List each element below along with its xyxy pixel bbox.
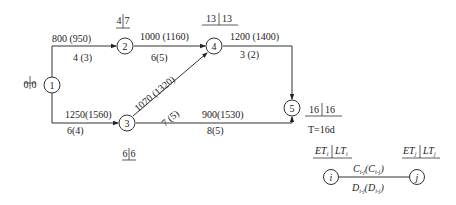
time-box-node-1: 0 0 (24, 76, 37, 90)
edge-1-3-cost: 1250(1560) (65, 109, 112, 121)
svg-text:i: i (330, 172, 333, 183)
svg-text:0: 0 (32, 79, 37, 90)
network-diagram: 1 2 3 4 5 0 0 4 7 13 13 16 16 (0, 0, 456, 205)
svg-text:1: 1 (50, 80, 55, 91)
svg-text:ETj: ETj (402, 145, 417, 157)
edge-4-5-cost: 1200 (1400) (230, 31, 279, 43)
svg-text:7: 7 (125, 15, 130, 26)
svg-text:5: 5 (290, 103, 295, 114)
svg-text:4: 4 (117, 15, 122, 26)
edge-2-4-cost: 1000 (1160) (140, 31, 189, 43)
svg-text:4: 4 (212, 41, 217, 52)
edge-4-5-duration: 3 (2) (240, 49, 259, 61)
svg-text:ETi: ETi (314, 145, 329, 157)
node-3: 3 (119, 115, 135, 131)
svg-text:13: 13 (222, 13, 232, 24)
legend-time-box-i: ETi LTi (313, 145, 352, 158)
diagram-svg: 1 2 3 4 5 0 0 4 7 13 13 16 16 (0, 0, 456, 205)
edge-1-2-duration: 4 (3) (73, 52, 92, 64)
svg-text:6: 6 (123, 148, 128, 159)
total-time-label: T=16d (308, 124, 335, 135)
svg-text:13: 13 (206, 13, 216, 24)
time-box-node-5: 16 16 (305, 103, 342, 116)
svg-text:3: 3 (125, 118, 130, 129)
node-2: 2 (117, 38, 133, 54)
legend-duration-label: Di-j(Di-j) (351, 182, 385, 194)
edge-3-5-cost: 900(1530) (202, 109, 244, 121)
time-box-node-3: 6 6 (122, 148, 136, 160)
svg-text:LTi: LTi (334, 145, 348, 157)
legend-node-i: i (324, 170, 339, 185)
node-1: 1 (44, 77, 60, 93)
legend-time-box-j: ETj LTj (402, 145, 440, 158)
svg-text:2: 2 (123, 41, 128, 52)
edge-1-2-cost: 800 (950) (52, 33, 91, 45)
svg-text:16: 16 (309, 104, 319, 115)
edge-3-4-cost: 1070 (1320) (132, 73, 177, 114)
svg-text:6: 6 (131, 148, 136, 159)
legend-cost-label: Ci-j(Ci-j) (353, 163, 384, 175)
edge-3-4-duration: 7 (5) (159, 108, 181, 130)
legend: ETi LTi ETj LTj i j Ci-j(Ci-j) Di-j(Di-j… (313, 145, 440, 194)
time-box-node-4: 13 13 (202, 13, 238, 25)
node-4: 4 (206, 38, 222, 54)
legend-node-j: j (410, 170, 425, 185)
edge-3-5-duration: 8(5) (207, 125, 224, 137)
svg-text:0: 0 (24, 79, 29, 90)
edge-1-3-duration: 6(4) (67, 125, 84, 137)
svg-text:LTj: LTj (422, 145, 436, 157)
edge-2-4-duration: 6(5) (151, 52, 168, 64)
time-box-node-2: 4 7 (116, 14, 130, 28)
node-5: 5 (284, 100, 300, 116)
svg-text:16: 16 (325, 104, 335, 115)
